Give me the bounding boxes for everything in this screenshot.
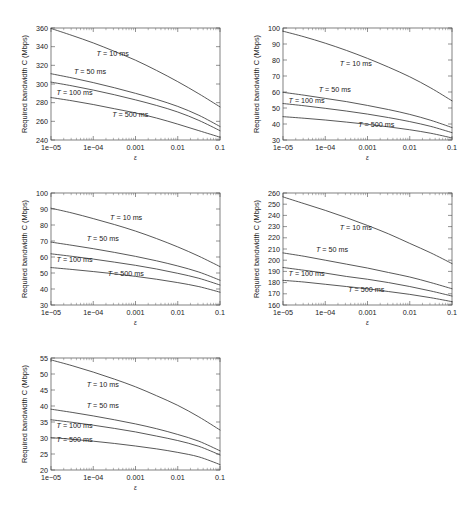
- series-value: = 500 ms: [353, 285, 385, 294]
- y-tick-label: 280: [36, 98, 48, 107]
- y-tick-label: 100: [36, 189, 48, 198]
- y-tick-label: 25: [40, 450, 48, 459]
- x-tick-label: 0.01: [171, 308, 185, 317]
- x-axis-label: ε: [134, 154, 137, 161]
- y-tick-label: 160: [268, 301, 280, 310]
- x-tick-label: 0.1: [447, 308, 457, 317]
- y-tick-label: 170: [268, 289, 280, 298]
- series-value: = 50 ms: [323, 85, 351, 94]
- series-value: = 10 ms: [91, 380, 119, 389]
- y-tick-label: 60: [272, 88, 280, 97]
- curve-annotation: T = 100 ms: [57, 255, 94, 264]
- x-tick-label: 1e−04: [83, 143, 103, 152]
- y-tick-label: 240: [36, 136, 48, 145]
- series-value: = 100 ms: [61, 255, 93, 264]
- y-tick-label: 50: [40, 269, 48, 278]
- x-tick-label: 0.1: [215, 308, 225, 317]
- figure-container: 1e−051e−040.0010.010.1240260280300320340…: [0, 0, 463, 506]
- curve-annotation: T = 100 ms: [289, 269, 326, 278]
- y-tick-label: 260: [36, 117, 48, 126]
- y-tick-label: 70: [40, 237, 48, 246]
- curve-annotation: T = 50 ms: [87, 234, 120, 243]
- x-tick-label: 0.001: [359, 143, 377, 152]
- curve-annotation: T = 10 ms: [110, 213, 143, 222]
- y-tick-label: 90: [40, 205, 48, 214]
- curve-annotation: T = 100 ms: [57, 421, 94, 430]
- series-value: = 500 ms: [112, 269, 144, 278]
- curve-annotation: T = 100 ms: [57, 88, 94, 97]
- y-tick-label: 55: [40, 354, 48, 363]
- x-tick-label: 1e−04: [83, 308, 103, 317]
- curve-annotation: T = 10 ms: [87, 380, 120, 389]
- y-tick-label: 320: [36, 61, 48, 70]
- plot-panel-4: 1e−051e−040.0010.010.1160170180190200210…: [250, 183, 460, 330]
- x-tick-label: 0.01: [403, 308, 417, 317]
- y-tick-label: 360: [36, 24, 48, 33]
- series-value: = 50 ms: [320, 245, 348, 254]
- plot-panel-1: 1e−051e−040.0010.010.1240260280300320340…: [18, 18, 228, 165]
- chart-panel-4: 1e−051e−040.0010.010.1160170180190200210…: [250, 183, 460, 330]
- x-tick-label: 0.001: [127, 143, 145, 152]
- curve-annotation: T = 50 ms: [74, 67, 107, 76]
- y-tick-label: 40: [40, 402, 48, 411]
- curve-annotation: T = 500 ms: [108, 269, 145, 278]
- x-tick-label: 0.01: [171, 143, 185, 152]
- curve-annotation: T = 50 ms: [319, 85, 352, 94]
- series-value: = 10 ms: [344, 223, 372, 232]
- y-tick-label: 190: [268, 267, 280, 276]
- y-tick-label: 80: [40, 221, 48, 230]
- y-tick-label: 220: [268, 233, 280, 242]
- series-value: = 500 ms: [363, 120, 395, 129]
- series-value: = 50 ms: [91, 401, 119, 410]
- plot-frame: [51, 193, 220, 305]
- x-tick-label: 1e−04: [315, 143, 335, 152]
- series-value: = 10 ms: [114, 213, 142, 222]
- y-tick-label: 40: [272, 120, 280, 129]
- curve-annotation: T = 500 ms: [358, 120, 395, 129]
- y-tick-label: 80: [272, 56, 280, 65]
- plot-panel-5: 1e−051e−040.0010.010.12025303540455055T …: [18, 348, 228, 495]
- y-tick-label: 35: [40, 418, 48, 427]
- plot-panel-2: 1e−051e−040.0010.010.130405060708090100T…: [250, 18, 460, 165]
- y-tick-label: 260: [268, 189, 280, 198]
- series-value: = 100 ms: [293, 269, 325, 278]
- y-tick-label: 200: [268, 256, 280, 265]
- x-tick-label: 0.01: [403, 143, 417, 152]
- x-tick-label: 0.001: [127, 473, 145, 482]
- y-tick-label: 300: [36, 80, 48, 89]
- curve-annotation: T = 100 ms: [289, 96, 326, 105]
- x-tick-label: 0.1: [447, 143, 457, 152]
- y-tick-label: 180: [268, 278, 280, 287]
- series-value: = 10 ms: [101, 49, 129, 58]
- plot-frame: [51, 28, 220, 140]
- curve-annotation: T = 10 ms: [97, 49, 130, 58]
- curve-annotation: T = 10 ms: [340, 223, 373, 232]
- y-tick-label: 250: [268, 200, 280, 209]
- y-tick-label: 50: [272, 104, 280, 113]
- curve-annotation: T = 500 ms: [112, 110, 149, 119]
- y-axis-label: Required bandwidth C (Mbps): [20, 365, 29, 463]
- y-tick-label: 30: [272, 136, 280, 145]
- y-tick-label: 340: [36, 42, 48, 51]
- series-value: = 50 ms: [91, 234, 119, 243]
- x-axis-label: ε: [134, 484, 137, 491]
- x-axis-label: ε: [134, 319, 137, 326]
- curve-annotation: T = 50 ms: [316, 245, 349, 254]
- y-tick-label: 20: [40, 466, 48, 475]
- chart-panel-1: 1e−051e−040.0010.010.1240260280300320340…: [18, 18, 228, 165]
- y-tick-label: 230: [268, 222, 280, 231]
- y-axis-label: Required bandwidth C (Mbps): [252, 200, 261, 298]
- y-tick-label: 30: [40, 301, 48, 310]
- chart-panel-3: 1e−051e−040.0010.010.130405060708090100T…: [18, 183, 228, 330]
- series-value: = 50 ms: [78, 67, 106, 76]
- curve-annotation: T = 10 ms: [340, 59, 373, 68]
- y-tick-label: 60: [40, 253, 48, 262]
- x-tick-label: 0.1: [215, 473, 225, 482]
- chart-panel-5: 1e−051e−040.0010.010.12025303540455055T …: [18, 348, 228, 495]
- y-tick-label: 30: [40, 434, 48, 443]
- y-axis-label: Required bandwidth C (Mbps): [20, 35, 29, 133]
- curve-annotation: T = 500 ms: [348, 285, 385, 294]
- y-tick-label: 240: [268, 211, 280, 220]
- y-tick-label: 210: [268, 245, 280, 254]
- y-tick-label: 40: [40, 285, 48, 294]
